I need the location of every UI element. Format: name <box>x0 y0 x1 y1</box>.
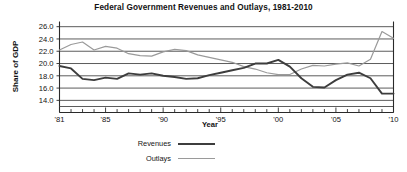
y-tick-label: 22.0 <box>39 47 54 56</box>
x-tick-label: '05 <box>331 115 341 124</box>
y-tick-label: 14.0 <box>39 96 54 105</box>
legend-label-revenues: Revenues <box>138 139 178 148</box>
x-tick-label: '10 <box>389 115 399 124</box>
y-tick-label: 26.0 <box>39 22 54 31</box>
chart-legend: Revenues Outlays <box>45 136 215 166</box>
series-line-revenues <box>60 60 394 94</box>
y-tick-label: 18.0 <box>39 72 54 81</box>
series-line-outlays <box>60 32 394 75</box>
axis-lines <box>60 22 394 113</box>
x-axis-label: Year <box>160 120 260 129</box>
legend-swatch-outlays-icon <box>178 157 215 161</box>
x-tick-label: '85 <box>101 115 111 124</box>
x-tick-label: '81 <box>55 115 65 124</box>
x-tick-label: '00 <box>273 115 283 124</box>
y-tick-labels: 14.016.018.020.022.024.026.0 <box>39 22 54 105</box>
y-tick-label: 20.0 <box>39 59 54 68</box>
data-series <box>60 32 394 94</box>
y-tick-label: 16.0 <box>39 84 54 93</box>
legend-label-outlays: Outlays <box>146 154 178 163</box>
y-tick-label: 24.0 <box>39 35 54 44</box>
legend-item-revenues: Revenues <box>45 136 215 151</box>
x-tick-marks <box>60 108 394 113</box>
legend-item-outlays: Outlays <box>45 151 215 166</box>
chart-figure: Federal Government Revenues and Outlays,… <box>0 0 407 172</box>
legend-swatch-revenues-icon <box>178 142 215 146</box>
